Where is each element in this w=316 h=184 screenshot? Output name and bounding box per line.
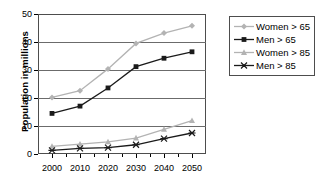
legend-item[interactable]: Women > 85 (233, 46, 310, 59)
y-tick-label-10: 10 (22, 121, 32, 131)
x-tick-mark-2010 (80, 154, 81, 158)
x-tick-label-2030: 2030 (126, 163, 146, 173)
series-line (52, 121, 192, 147)
data-point (106, 86, 111, 91)
x-tick-mark-2020 (108, 154, 109, 158)
series-women-65 (49, 23, 195, 101)
x-tick-mark-2030 (136, 154, 137, 158)
data-point (188, 130, 195, 136)
data-point (162, 56, 167, 61)
legend-label: Women > 85 (256, 47, 310, 58)
data-point (160, 136, 167, 142)
data-point (132, 142, 139, 148)
series-layer (38, 14, 206, 154)
y-tick-label-50: 50 (22, 9, 32, 19)
legend-label: Men > 65 (256, 34, 296, 45)
data-point (78, 104, 83, 109)
y-tick-mark (34, 154, 38, 155)
x-tick-mark-2000 (52, 154, 53, 158)
x-tick-mark-2050 (192, 154, 193, 158)
series-women-85 (49, 117, 195, 148)
x-tick-minor (66, 154, 67, 157)
data-point (161, 30, 167, 36)
x-tick-label-2000: 2000 (42, 163, 62, 173)
x-tick-minor (122, 154, 123, 157)
data-point (49, 94, 55, 100)
y-tick-label-20: 20 (22, 93, 32, 103)
data-point (189, 117, 195, 123)
chart-legend: Women > 65Men > 65Women > 85Men > 85 (229, 16, 315, 76)
x-tick-label-2010: 2010 (70, 163, 90, 173)
legend-label: Men > 85 (256, 60, 296, 71)
data-point (190, 49, 195, 54)
population-projection-chart: Population in millions 01020304050 20002… (0, 0, 316, 184)
series-men-85 (48, 130, 195, 153)
x-tick-minor (178, 154, 179, 157)
data-point (189, 23, 195, 29)
x-tick-minor (94, 154, 95, 157)
plot-area: 01020304050 200020102020203020402050 (38, 14, 206, 154)
series-line (52, 26, 192, 98)
y-tick-label-0: 0 (27, 149, 32, 159)
series-men-65 (50, 49, 195, 115)
legend-marker-star-icon (233, 60, 255, 71)
series-line (52, 52, 192, 114)
legend-marker-triangle-icon (233, 47, 255, 58)
data-point (134, 64, 139, 69)
x-tick-label-2050: 2050 (182, 163, 202, 173)
x-tick-label-2040: 2040 (154, 163, 174, 173)
y-tick-label-30: 30 (22, 65, 32, 75)
x-tick-mark-2040 (164, 154, 165, 158)
legend-marker-square-icon (233, 34, 255, 45)
series-line (52, 133, 192, 150)
legend-item[interactable]: Men > 65 (233, 33, 310, 46)
legend-item[interactable]: Women > 65 (233, 20, 310, 33)
data-point (50, 111, 55, 116)
legend-item[interactable]: Men > 85 (233, 59, 310, 72)
x-tick-label-2020: 2020 (98, 163, 118, 173)
legend-label: Women > 65 (256, 21, 310, 32)
x-tick-minor (150, 154, 151, 157)
y-tick-label-40: 40 (22, 37, 32, 47)
data-point (104, 145, 111, 151)
legend-marker-diamond-icon (233, 21, 255, 32)
